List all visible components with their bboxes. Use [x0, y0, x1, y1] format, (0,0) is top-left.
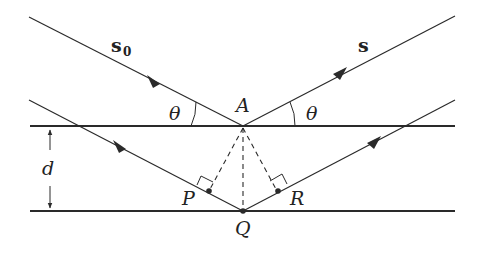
- label-P: P: [181, 187, 196, 209]
- incident-ray-upper: [29, 17, 243, 126]
- dashed-AP: [209, 128, 243, 191]
- dashed-AR: [243, 128, 277, 191]
- angle-arc-left: [191, 102, 196, 126]
- label-Q: Q: [235, 217, 251, 239]
- right-angle-marker-R: [270, 174, 287, 184]
- label-theta-right: θ: [306, 102, 318, 124]
- incident-lower-arrow-icon: [113, 140, 126, 153]
- label-s-scattered: s: [358, 34, 369, 56]
- scattered-ray-upper: [243, 16, 455, 126]
- label-s0: s: [111, 34, 122, 56]
- label-R: R: [289, 187, 304, 209]
- incident-ray-lower: [29, 100, 243, 211]
- bragg-diffraction-diagram: s 0 s θ θ A P R Q d: [0, 0, 480, 256]
- angle-arc-right: [290, 102, 295, 126]
- right-angle-marker-P: [197, 176, 213, 185]
- scattered-lower-arrow-icon: [367, 136, 381, 149]
- label-s0-subscript: 0: [123, 45, 131, 59]
- point-Q-dot: [240, 208, 246, 214]
- point-R-dot: [275, 188, 281, 194]
- label-theta-left: θ: [169, 102, 181, 124]
- scattered-ray-lower: [243, 100, 455, 211]
- incident-arrow-icon: [147, 75, 160, 88]
- label-d: d: [42, 157, 54, 179]
- point-P-dot: [206, 188, 212, 194]
- label-A: A: [234, 94, 250, 116]
